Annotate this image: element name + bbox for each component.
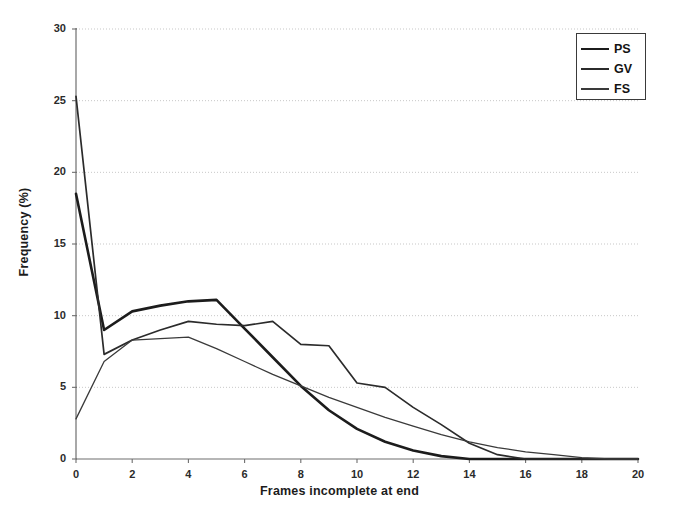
series-line-fs bbox=[76, 337, 638, 459]
x-tick-label-20: 20 bbox=[623, 468, 653, 480]
y-tick-label-15: 15 bbox=[40, 237, 66, 249]
x-tick-label-6: 6 bbox=[230, 468, 260, 480]
gridlines bbox=[76, 29, 638, 387]
legend-swatch-gv bbox=[581, 68, 609, 70]
y-tick-label-5: 5 bbox=[40, 380, 66, 392]
series-lines bbox=[76, 96, 638, 459]
x-tick-label-4: 4 bbox=[173, 468, 203, 480]
y-tick-label-30: 30 bbox=[40, 22, 66, 34]
series-line-ps bbox=[76, 194, 638, 459]
legend-swatch-ps bbox=[581, 48, 609, 51]
legend-item-gv[interactable]: GV bbox=[581, 61, 643, 77]
x-tick-label-12: 12 bbox=[398, 468, 428, 480]
legend-item-ps[interactable]: PS bbox=[581, 41, 643, 57]
x-tick-label-0: 0 bbox=[61, 468, 91, 480]
x-tick-label-18: 18 bbox=[567, 468, 597, 480]
x-tick-label-8: 8 bbox=[286, 468, 316, 480]
legend: PSGVFS bbox=[576, 33, 646, 100]
chart-container: 051015202530 02468101214161820 Frames in… bbox=[0, 0, 679, 526]
axes bbox=[76, 28, 639, 459]
legend-item-fs[interactable]: FS bbox=[581, 81, 643, 97]
y-tick-label-20: 20 bbox=[40, 165, 66, 177]
x-tick-label-14: 14 bbox=[454, 468, 484, 480]
x-tick-label-2: 2 bbox=[117, 468, 147, 480]
x-tick-label-16: 16 bbox=[511, 468, 541, 480]
series-line-gv bbox=[76, 96, 638, 459]
legend-label-fs: FS bbox=[614, 83, 630, 96]
y-tick-label-0: 0 bbox=[40, 452, 66, 464]
x-axis-title: Frames incomplete at end bbox=[0, 484, 679, 498]
x-tick-label-10: 10 bbox=[342, 468, 372, 480]
y-tick-label-10: 10 bbox=[40, 309, 66, 321]
legend-label-ps: PS bbox=[614, 43, 631, 56]
y-tick-label-25: 25 bbox=[40, 94, 66, 106]
legend-label-gv: GV bbox=[614, 63, 632, 76]
legend-swatch-fs bbox=[581, 88, 609, 90]
y-axis-title: Frequency (%) bbox=[17, 142, 31, 322]
